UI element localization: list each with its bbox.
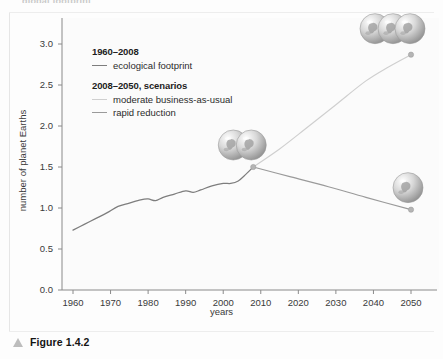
y-tick-label: 1.0 bbox=[23, 202, 53, 213]
globe-icon bbox=[236, 130, 266, 160]
figure-container: global footprint number of planet Earths… bbox=[0, 0, 443, 359]
chart-legend: 1960–2008ecological footprint2008–2050, … bbox=[92, 46, 282, 118]
legend-label: moderate business-as-usual bbox=[113, 94, 232, 105]
globe-icon bbox=[395, 14, 425, 44]
figure-caption: Figure 1.4.2 bbox=[13, 336, 90, 348]
legend-swatch-moderate bbox=[92, 99, 107, 100]
legend-item-historical[interactable]: ecological footprint bbox=[92, 60, 282, 71]
x-tick-label: 2050 bbox=[389, 297, 433, 308]
data-point-branch-point-2008[interactable] bbox=[251, 164, 256, 169]
y-tick-label: 1.5 bbox=[23, 161, 53, 172]
data-point-moderate-endpoint-2050[interactable] bbox=[408, 52, 413, 57]
y-tick-label: 0.5 bbox=[23, 243, 53, 254]
legend-label: rapid reduction bbox=[113, 107, 176, 118]
y-tick-label: 0.0 bbox=[23, 284, 53, 295]
y-tick-label: 3.0 bbox=[23, 38, 53, 49]
legend-group: 2008–2050, scenariosmoderate business-as… bbox=[92, 80, 282, 118]
y-tick-label: 2.5 bbox=[23, 79, 53, 90]
legend-item-rapid[interactable]: rapid reduction bbox=[92, 107, 282, 118]
y-tick-label: 2.0 bbox=[23, 120, 53, 131]
legend-swatch-historical bbox=[92, 65, 107, 66]
legend-item-moderate[interactable]: moderate business-as-usual bbox=[92, 94, 282, 105]
legend-group: 1960–2008ecological footprint bbox=[92, 46, 282, 71]
legend-label: ecological footprint bbox=[113, 60, 192, 71]
data-point-rapid-endpoint-2050[interactable] bbox=[408, 207, 413, 212]
figure-caption-text: Figure 1.4.2 bbox=[30, 336, 90, 348]
triangle-icon bbox=[13, 338, 23, 347]
legend-group-heading: 1960–2008 bbox=[92, 46, 282, 57]
legend-swatch-rapid bbox=[92, 112, 107, 113]
globe-icon bbox=[393, 173, 423, 203]
legend-group-heading: 2008–2050, scenarios bbox=[92, 80, 282, 91]
